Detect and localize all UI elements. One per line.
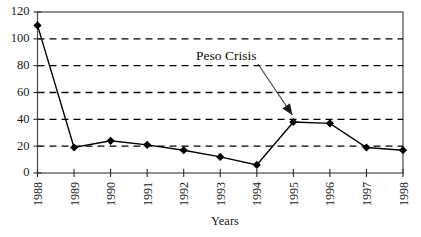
data-point-marker	[70, 143, 78, 151]
data-point-marker	[326, 119, 334, 127]
x-tick-label: 1988	[31, 182, 45, 206]
series-line	[38, 25, 404, 165]
annotation-label: Peso Crisis	[196, 48, 256, 63]
x-tick-label: 1990	[104, 182, 118, 206]
y-tick-labels: 020406080100120	[11, 4, 30, 179]
y-tick-label: 0	[23, 165, 29, 179]
x-tick-labels: 1988198919901991199219931994199519961997…	[31, 182, 411, 206]
annotation-arrow-head	[282, 103, 292, 115]
y-tick-label: 40	[17, 112, 30, 126]
data-series	[33, 21, 407, 169]
x-tick-label: 1996	[323, 182, 337, 206]
x-tick-label: 1998	[397, 182, 411, 206]
data-point-marker	[399, 146, 407, 154]
x-tick-label: 1992	[177, 182, 191, 206]
x-tick-label: 1997	[360, 182, 374, 206]
data-point-marker	[33, 21, 41, 29]
y-tick-label: 120	[11, 4, 30, 18]
data-point-marker	[107, 137, 115, 145]
annotation-peso-crisis: Peso Crisis	[196, 48, 292, 115]
y-tick-label: 100	[11, 31, 30, 45]
x-axis-title: Years	[211, 214, 239, 228]
y-tick-label: 80	[17, 58, 30, 72]
y-tick-label: 60	[17, 85, 30, 99]
x-tick-label: 1994	[250, 182, 264, 206]
data-point-marker	[362, 143, 370, 151]
data-point-marker	[180, 146, 188, 154]
x-tick-label: 1989	[68, 182, 82, 206]
data-point-marker	[143, 141, 151, 149]
data-point-marker	[216, 153, 224, 161]
series-markers	[33, 21, 407, 169]
line-chart: 020406080100120 198819891990199119921993…	[0, 0, 421, 237]
x-tick-label: 1993	[214, 182, 228, 206]
x-tick-label: 1995	[287, 182, 301, 206]
y-tick-label: 20	[17, 139, 30, 153]
chart-figure: 020406080100120 198819891990199119921993…	[0, 0, 421, 237]
x-tick-label: 1991	[141, 182, 155, 206]
